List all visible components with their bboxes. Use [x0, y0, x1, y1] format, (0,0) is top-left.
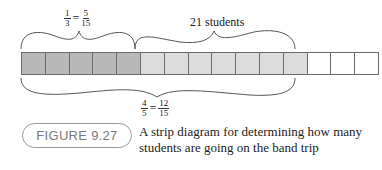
fraction-four-fifths: 4 5	[141, 99, 148, 118]
strip-cell-15	[354, 52, 379, 75]
fraction-twelve-fifteenths: 12 15	[158, 99, 169, 118]
strip-cell-7	[164, 52, 188, 75]
strip-cell-13	[307, 52, 331, 75]
top-brace-left	[21, 31, 135, 49]
strip-cell-1	[21, 52, 45, 75]
figure-caption: A strip diagram for determining how many…	[139, 124, 379, 156]
strip-diagram	[21, 52, 379, 75]
strip-cell-5	[116, 52, 140, 75]
strip-cell-11	[259, 52, 283, 75]
strip-cell-3	[69, 52, 93, 75]
strip-cell-6	[140, 52, 164, 75]
bottom-brace	[21, 78, 295, 97]
strip-cell-4	[92, 52, 116, 75]
denominator: 5	[142, 109, 147, 118]
strip-cell-9	[211, 52, 235, 75]
bottom-fraction-label: 4 5 = 12 15	[141, 98, 169, 118]
strip-cell-2	[45, 52, 69, 75]
strip-cell-12	[283, 52, 307, 75]
denominator: 15	[159, 109, 168, 118]
equals-sign: =	[150, 101, 157, 115]
strip-cell-10	[235, 52, 259, 75]
top-brace-right	[135, 31, 295, 49]
strip-cell-14	[330, 52, 354, 75]
figure-number-badge: FIGURE 9.27	[22, 123, 132, 148]
strip-cell-8	[188, 52, 212, 75]
